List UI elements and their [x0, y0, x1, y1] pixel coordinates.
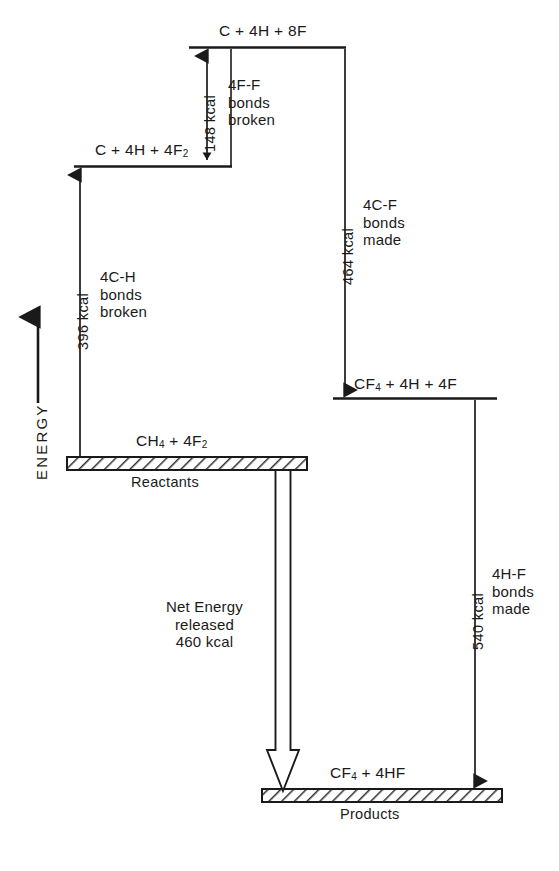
- plate-label-products: Products: [340, 806, 400, 823]
- transition-label-hf-made-line3: made: [492, 600, 530, 617]
- diagram-vector-layer: [0, 0, 559, 871]
- net-energy-line2: released: [175, 616, 234, 633]
- transition-label-ff-broken: 4F-Fbondsbroken: [228, 76, 275, 129]
- transition-label-ch-broken-line3: broken: [100, 303, 147, 320]
- transition-value-cf-made: 464 kcal: [340, 228, 357, 285]
- products-plate: [262, 789, 502, 802]
- transition-label-ch-broken: 4C-Hbondsbroken: [100, 268, 147, 321]
- transition-label-cf-made: 4C-Fbondsmade: [363, 196, 405, 249]
- transition-label-hf-made-line1: 4H-F: [492, 565, 526, 582]
- net-energy-label: Net Energyreleased460 kcal: [147, 598, 262, 651]
- transition-label-cf-made-line1: 4C-F: [363, 196, 397, 213]
- level-label-second: C + 4H + 4F2: [95, 141, 188, 160]
- transition-label-ff-broken-line2: bonds: [228, 94, 270, 111]
- transition-value-hf-made: 540 kcal: [470, 593, 487, 650]
- net-energy-line3: 460 kcal: [176, 633, 233, 650]
- plate-label-reactants: Reactants: [131, 474, 199, 491]
- level-label-top: C + 4H + 8F: [219, 22, 307, 40]
- level-label-products: CF4 + 4HF: [330, 764, 406, 783]
- transition-label-ff-broken-line3: broken: [228, 111, 275, 128]
- transition-label-hf-made-line2: bonds: [492, 583, 534, 600]
- transition-value-ff-broken: 148 kcal: [202, 95, 219, 152]
- energy-axis-label: ENERGY: [33, 403, 51, 480]
- energy-diagram: C + 4H + 8F 148 kcal 4F-Fbondsbroken C +…: [0, 0, 559, 871]
- level-label-intermediate: CF4 + 4H + 4F: [354, 375, 457, 394]
- net-energy-line1: Net Energy: [166, 598, 243, 615]
- level-label-reactants: CH4 + 4F2: [136, 432, 207, 451]
- reactants-plate: [67, 457, 307, 470]
- transition-label-ch-broken-line1: 4C-H: [100, 268, 136, 285]
- transition-label-hf-made: 4H-Fbondsmade: [492, 565, 534, 618]
- transition-value-ch-broken: 396 kcal: [75, 293, 92, 350]
- transition-label-ff-broken-line1: 4F-F: [228, 76, 260, 93]
- net-energy-arrow: [267, 470, 299, 791]
- transition-label-cf-made-line3: made: [363, 231, 401, 248]
- transition-label-ch-broken-line2: bonds: [100, 286, 142, 303]
- transition-label-cf-made-line2: bonds: [363, 214, 405, 231]
